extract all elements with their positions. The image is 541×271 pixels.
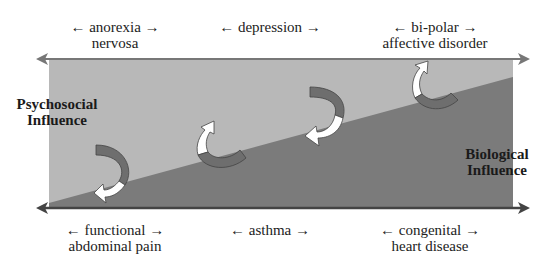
bottom-label-congenital: ← congenital → heart disease [360,222,500,254]
right-arrow-icon: → [295,222,310,238]
left-arrow-icon: ← [380,222,395,238]
top-label-depression: ← depression → [200,19,340,35]
left-arrow-icon: ← [70,19,85,35]
right-arrow-icon: → [145,19,160,35]
right-arrow-icon: → [462,19,477,35]
left-arrow-icon: ← [219,19,234,35]
bottom-label-asthma: ← asthma → [210,222,330,238]
right-arrow-icon: → [306,19,321,35]
top-label-bipolar: ← bi-polar → affective disorder [355,19,515,51]
right-arrow-icon: → [465,222,480,238]
biological-influence-label: Biological Influence [455,146,539,178]
left-arrow-icon: ← [230,222,245,238]
left-arrow-icon: ← [66,222,81,238]
right-arrow-icon: → [149,222,164,238]
top-label-anorexia: ← anorexia → nervosa [50,19,180,51]
bottom-label-functional: ← functional → abdominal pain [50,222,180,254]
left-arrow-icon: ← [393,19,408,35]
psychosocial-influence-label: Psychosocial Influence [10,96,104,128]
